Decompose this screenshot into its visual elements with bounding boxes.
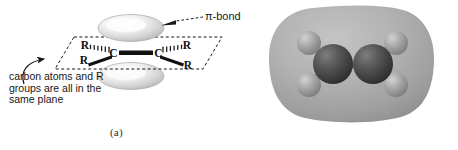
substituent-label-upper-right: R xyxy=(183,39,192,51)
pi-bond-leader-line xyxy=(161,17,203,26)
carbon-carbon-double-bond xyxy=(119,51,153,56)
sphere-hydrogen-lower-left xyxy=(297,73,321,97)
bond-hashed-upper-right xyxy=(163,45,182,52)
p-orbital-lobe-bottom-icon xyxy=(98,63,164,90)
panel-a-orbital-diagram: C C R R R R π-bond carbon atoms and R gr… xyxy=(0,0,229,150)
p-orbital-lobe-top-icon xyxy=(98,15,164,42)
panel-b-space-filling-model: (b) xyxy=(229,0,458,150)
plane-note-annotation: carbon atoms and R groups are all in the… xyxy=(9,71,104,106)
panel-a-caption: (a) xyxy=(110,126,123,138)
bond-hashed-upper-left xyxy=(91,45,110,52)
substituent-label-upper-left: R xyxy=(81,39,90,51)
sphere-carbon-left xyxy=(313,44,353,84)
pi-bond-arrowhead xyxy=(161,20,176,25)
panel-b-graphics xyxy=(229,0,458,150)
sphere-carbon-right xyxy=(353,44,393,84)
substituent-label-lower-left: R xyxy=(80,54,89,66)
sphere-hydrogen-upper-left xyxy=(297,31,321,55)
atom-label-carbon-left: C xyxy=(109,47,117,59)
substituent-label-lower-right: R xyxy=(184,59,193,71)
figure-container: C C R R R R π-bond carbon atoms and R gr… xyxy=(0,0,458,150)
bond-wedge-lower-right xyxy=(160,55,184,66)
atom-label-carbon-right: C xyxy=(154,47,162,59)
